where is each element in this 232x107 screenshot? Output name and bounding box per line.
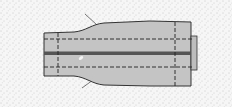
end-tab (191, 36, 197, 70)
illustration-canvas (0, 0, 232, 107)
fabric-diagram (0, 0, 232, 107)
center-fold (44, 52, 191, 56)
